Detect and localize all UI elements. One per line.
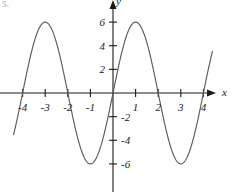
x-axis-label: x	[222, 87, 227, 98]
x-tick-label--4: -4	[18, 102, 27, 113]
y-tick-label-neg2: -2	[121, 111, 130, 122]
graph-figure: 5. -4-3-2-11234 642-2-4-6 x y	[0, 0, 236, 192]
x-tick-label--3: -3	[41, 102, 50, 113]
x-tick-label--2: -2	[63, 102, 72, 113]
x-tick-label-1: 1	[133, 102, 139, 113]
y-tick-label-6: 6	[100, 17, 106, 28]
x-axis-arrow-icon	[207, 90, 216, 97]
y-tick-label-4: 4	[100, 40, 106, 51]
y-tick-label-neg6: -6	[121, 158, 130, 169]
x-tick-label--1: -1	[86, 102, 95, 113]
y-axis-label: y	[116, 0, 121, 7]
x-tick-label-4: 4	[201, 102, 207, 113]
y-tick-label-2: 2	[100, 64, 106, 75]
x-tick-label-2: 2	[155, 102, 161, 113]
y-tick-label-neg4: -4	[121, 135, 130, 146]
sine-curve-plot	[0, 0, 236, 192]
x-tick-label-3: 3	[178, 102, 184, 113]
